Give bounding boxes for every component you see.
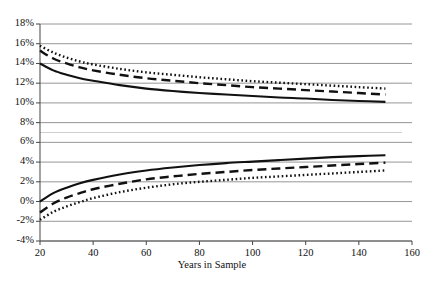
- x-tick-label: 120: [286, 247, 326, 258]
- y-tick-label: 0%: [20, 195, 34, 206]
- y-tick-label: -2%: [17, 214, 35, 225]
- x-tick-label: 100: [233, 247, 273, 258]
- y-tick-label: 10%: [15, 96, 34, 107]
- x-tick-label: 60: [126, 247, 166, 258]
- x-tick-label: 80: [179, 247, 219, 258]
- y-tick-label: 16%: [15, 37, 34, 48]
- y-tick-label: 4%: [20, 155, 34, 166]
- y-tick-label: 8%: [20, 116, 34, 127]
- x-tick-label: 160: [392, 247, 424, 258]
- x-axis-title: Years in Sample: [0, 259, 424, 270]
- series-line-upper-solid: [40, 63, 385, 101]
- chart-container: -4%-2%0%2%4%6%8%10%12%14%16%18% 20406080…: [0, 0, 424, 284]
- x-tick-label: 20: [20, 247, 60, 258]
- y-tick-label: 18%: [15, 17, 34, 28]
- y-tick-label: 12%: [15, 76, 34, 87]
- y-tick-label: 14%: [15, 56, 34, 67]
- series-line-lower-dotted: [40, 170, 385, 219]
- x-tick-label: 140: [339, 247, 379, 258]
- y-tick-label: -4%: [17, 234, 35, 245]
- series-line-upper-dashed: [40, 51, 385, 95]
- series-line-upper-dotted: [40, 46, 385, 89]
- y-tick-label: 6%: [20, 135, 34, 146]
- y-tick-label: 2%: [20, 175, 34, 186]
- line-chart-plot: [0, 0, 424, 284]
- series-line-lower-dashed: [40, 163, 385, 213]
- x-tick-label: 40: [73, 247, 113, 258]
